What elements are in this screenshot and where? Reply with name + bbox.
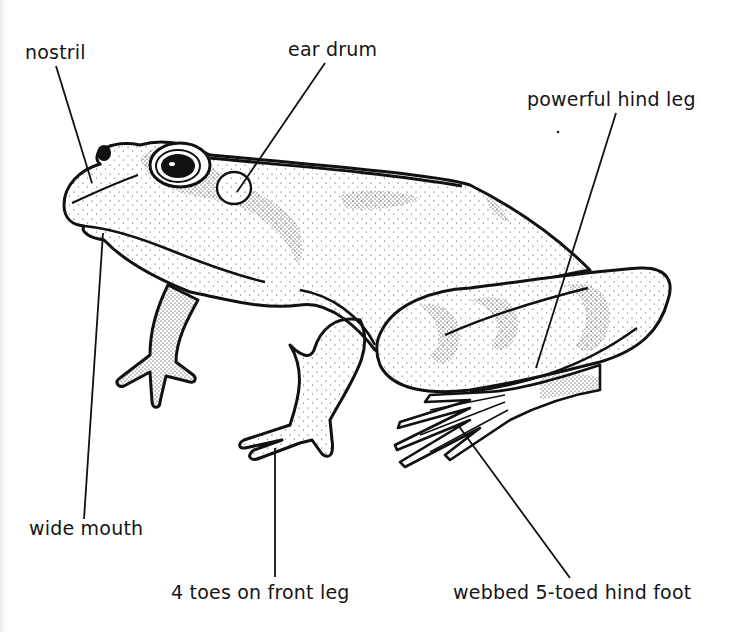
label-four-toes-front-leg: 4 toes on front leg xyxy=(171,583,350,602)
label-webbed-hind-foot: webbed 5-toed hind foot xyxy=(453,583,691,602)
label-powerful-hind-leg: powerful hind leg xyxy=(527,90,696,109)
far-front-leg xyxy=(117,285,198,407)
label-nostril: nostril xyxy=(25,43,86,62)
near-front-leg xyxy=(240,319,365,459)
speck xyxy=(557,131,560,134)
leader-line-hind-foot xyxy=(458,425,570,578)
ear-drum-shape xyxy=(217,172,251,204)
leader-line-nostril xyxy=(56,66,92,183)
leader-line-wide-mouth xyxy=(84,233,103,519)
eye xyxy=(150,143,210,187)
label-wide-mouth: wide mouth xyxy=(29,519,143,538)
frog-anatomy-diagram: nostril ear drum powerful hind leg wide … xyxy=(0,0,742,632)
label-ear-drum: ear drum xyxy=(288,40,377,59)
